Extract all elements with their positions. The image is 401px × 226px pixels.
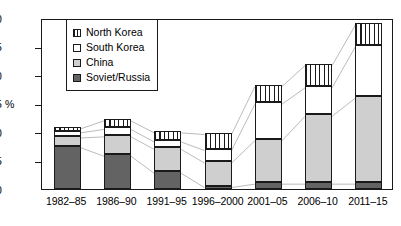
legend-item-label: North Korea [86, 27, 143, 38]
segment-china [255, 139, 282, 182]
segment-soviet [305, 182, 332, 189]
segment-nkorea [305, 64, 332, 86]
segment-nkorea [54, 127, 81, 131]
connector-line [332, 98, 355, 116]
segment-soviet [54, 146, 81, 189]
legend-swatch-icon [73, 59, 81, 67]
bar-2006–10 [305, 64, 332, 189]
bar-1986–90 [104, 119, 131, 189]
bar-2011–15 [355, 23, 382, 189]
segment-skorea [54, 131, 81, 136]
segment-skorea [255, 102, 282, 138]
connector-line [131, 121, 154, 133]
y-axis-tick-10: 10 [0, 128, 2, 139]
segment-skorea [355, 45, 382, 96]
legend-item-label: China [86, 57, 113, 68]
y-axis-tick-30: 30 [0, 14, 2, 25]
legend-item-skorea: South Korea [73, 40, 150, 55]
segment-skorea [104, 127, 131, 134]
x-axis-tick-2011–15: 2011–15 [343, 196, 393, 207]
segment-soviet [255, 182, 282, 189]
connector-line [282, 66, 305, 87]
connector-line [232, 184, 255, 187]
segment-nkorea [205, 133, 232, 149]
bar-1991–95 [154, 131, 181, 189]
connector-line [181, 149, 204, 163]
segment-china [205, 161, 232, 186]
connector-line [181, 133, 204, 135]
connector-line [81, 121, 104, 129]
segment-nkorea [154, 131, 181, 140]
segment-nkorea [355, 23, 382, 45]
segment-china [154, 147, 181, 171]
connector-line [232, 87, 255, 135]
connector-line [332, 47, 355, 88]
segment-china [305, 114, 332, 182]
connector-line [332, 25, 355, 65]
connector-line [131, 129, 154, 142]
legend-item-nkorea: North Korea [73, 25, 150, 40]
legend-item-label: Soviet/Russia [86, 72, 150, 83]
stacked-bar-chart: 051015202530 % 1982–851986–901991–951996… [0, 0, 401, 226]
segment-china [104, 135, 131, 154]
y-axis-title: % [5, 99, 14, 110]
segment-skorea [205, 149, 232, 162]
x-axis-tick-1986–90: 1986–90 [91, 196, 141, 207]
legend-swatch-icon [73, 29, 81, 37]
connector-line [282, 116, 305, 141]
segment-skorea [154, 140, 181, 147]
connector-line [181, 142, 204, 151]
legend-swatch-icon [73, 74, 81, 82]
bar-1982–85 [54, 127, 81, 189]
segment-soviet [205, 186, 232, 189]
chart-legend: North KoreaSouth KoreaChinaSoviet/Russia [66, 19, 158, 91]
x-axis-tick-1982–85: 1982–85 [41, 196, 91, 207]
segment-nkorea [255, 85, 282, 103]
y-axis-tick-15: 15 [0, 99, 2, 110]
y-axis-tick-20: 20 [0, 71, 2, 82]
segment-china [54, 136, 81, 146]
legend-swatch-icon [73, 44, 81, 52]
connector-line [81, 137, 104, 138]
segment-china [355, 96, 382, 182]
segment-nkorea [104, 119, 131, 128]
x-axis-tick-1996–2000: 1996–2000 [192, 196, 242, 207]
bar-2001–05 [255, 85, 282, 189]
legend-item-label: South Korea [86, 42, 144, 53]
legend-item-china: China [73, 55, 150, 70]
segment-soviet [104, 154, 131, 189]
x-axis-tick-2001–05: 2001–05 [242, 196, 292, 207]
connector-line [81, 129, 104, 132]
y-axis-tick-5: 5 [0, 156, 2, 167]
connector-line [282, 88, 305, 105]
segment-skorea [305, 86, 332, 115]
connector-line [232, 104, 255, 150]
connector-line [131, 137, 154, 150]
y-axis-tick-25: 25 [0, 42, 2, 53]
y-axis-tick-0: 0 [0, 185, 2, 196]
connector-line [81, 148, 104, 157]
x-axis-tick-1991–95: 1991–95 [142, 196, 192, 207]
connector-line [232, 141, 255, 163]
segment-soviet [154, 171, 181, 189]
bar-1996–2000 [205, 133, 232, 189]
connector-line [131, 156, 154, 173]
legend-item-soviet: Soviet/Russia [73, 70, 150, 85]
segment-soviet [355, 182, 382, 189]
connector-line [181, 173, 204, 187]
x-axis-tick-2006–10: 2006–10 [292, 196, 342, 207]
